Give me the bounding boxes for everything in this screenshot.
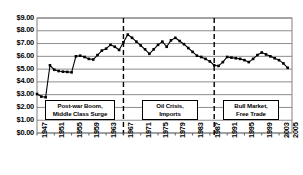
data-point <box>230 56 233 59</box>
x-axis-tick-label: 1971 <box>144 122 153 138</box>
data-point <box>273 57 276 60</box>
data-point <box>247 61 250 64</box>
x-axis-tick-label: 1947 <box>40 122 49 138</box>
y-axis-tick-label: $1.00 <box>0 116 34 124</box>
data-point <box>62 70 65 73</box>
data-point <box>40 95 43 98</box>
data-point <box>235 57 238 60</box>
x-axis-tick-label: 1983 <box>196 122 205 138</box>
data-point <box>222 61 225 64</box>
data-point <box>213 64 216 67</box>
data-point <box>36 93 39 96</box>
data-point <box>157 44 160 47</box>
x-axis-tick-label: 1959 <box>92 122 101 138</box>
data-point <box>44 96 47 99</box>
data-point <box>152 48 155 51</box>
annotation-oil-crisis: Oil Crisis, Imports <box>142 100 198 120</box>
data-point <box>109 44 112 47</box>
data-point <box>96 54 99 57</box>
data-point <box>226 56 229 59</box>
y-axis-tick-label: $8.00 <box>0 26 34 34</box>
y-axis-tick-label: $3.00 <box>0 90 34 98</box>
y-axis-tick-label: $6.00 <box>0 52 34 60</box>
annotation-line-1: Post-war Boom, <box>58 102 103 110</box>
data-point <box>144 48 147 51</box>
x-axis-tick-label: 2005 <box>291 122 300 138</box>
x-axis-tick-label: 1991 <box>230 122 239 138</box>
data-point <box>187 47 190 50</box>
data-point <box>101 49 104 52</box>
data-point <box>209 60 212 63</box>
data-point <box>183 43 186 46</box>
data-point <box>88 58 91 61</box>
data-point <box>282 62 285 65</box>
x-axis-tick-label: 2003 <box>282 122 291 138</box>
x-axis-tick-label: 1963 <box>109 122 118 138</box>
data-point <box>148 52 151 55</box>
data-point <box>217 65 220 68</box>
data-point <box>105 47 108 50</box>
data-point <box>278 59 281 62</box>
annotation-post-war-boom: Post-war Boom, Middle Class Surge <box>45 100 115 120</box>
data-point <box>135 40 138 43</box>
annotation-line-2: Imports <box>159 110 181 118</box>
y-axis-tick-label: $4.00 <box>0 77 34 85</box>
y-axis-tick-label: $5.00 <box>0 65 34 73</box>
data-point <box>256 54 259 57</box>
data-point <box>70 71 73 74</box>
data-point <box>83 56 86 59</box>
data-point <box>260 51 263 54</box>
y-axis-tick-label: $2.00 <box>0 103 34 111</box>
data-point <box>196 54 199 57</box>
x-axis-tick-label: 1995 <box>247 122 256 138</box>
data-point <box>131 37 134 40</box>
chart-container: $0.00$1.00$2.00$3.00$4.00$5.00$6.00$7.00… <box>0 0 303 175</box>
data-point <box>114 45 117 48</box>
data-point <box>57 70 60 73</box>
data-point <box>118 49 121 52</box>
data-point <box>252 58 255 61</box>
data-point <box>126 33 129 36</box>
x-axis-tick-label: 1951 <box>57 122 66 138</box>
data-point <box>170 39 173 42</box>
annotation-line-1: Bull Market, <box>234 102 267 110</box>
y-axis-tick-label: $9.00 <box>0 14 34 22</box>
data-point <box>75 55 78 58</box>
data-point <box>49 64 52 67</box>
x-axis-tick-label: 1967 <box>126 122 135 138</box>
data-point <box>178 40 181 43</box>
y-axis-tick-label: $7.00 <box>0 39 34 47</box>
annotation-line-2: Free Trade <box>236 110 266 118</box>
data-point <box>92 58 95 61</box>
data-point <box>265 53 268 56</box>
x-axis-tick-label: 1979 <box>178 122 187 138</box>
data-point <box>239 58 242 61</box>
annotation-bull-market: Bull Market, Free Trade <box>223 100 279 120</box>
data-point <box>139 44 142 47</box>
data-point <box>200 56 203 59</box>
data-point <box>165 45 168 48</box>
data-point <box>269 55 272 58</box>
x-axis-tick-label: 1955 <box>75 122 84 138</box>
data-point <box>204 58 207 61</box>
annotation-line-2: Middle Class Surge <box>53 110 107 118</box>
y-axis-tick-label: $0.00 <box>0 129 34 137</box>
data-point <box>174 37 177 40</box>
x-axis-tick-label: 1999 <box>265 122 274 138</box>
annotation-line-1: Oil Crisis, <box>156 102 183 110</box>
data-point <box>122 41 125 44</box>
data-point <box>66 71 69 74</box>
data-point <box>53 68 56 71</box>
data-point <box>79 54 82 57</box>
data-point <box>161 40 164 43</box>
x-axis-tick-label: 1975 <box>161 122 170 138</box>
data-point <box>191 51 194 54</box>
data-point <box>286 67 289 70</box>
x-axis-tick-label: 1987 <box>213 122 222 138</box>
chart-plot-svg <box>0 0 303 175</box>
data-point <box>243 59 246 62</box>
